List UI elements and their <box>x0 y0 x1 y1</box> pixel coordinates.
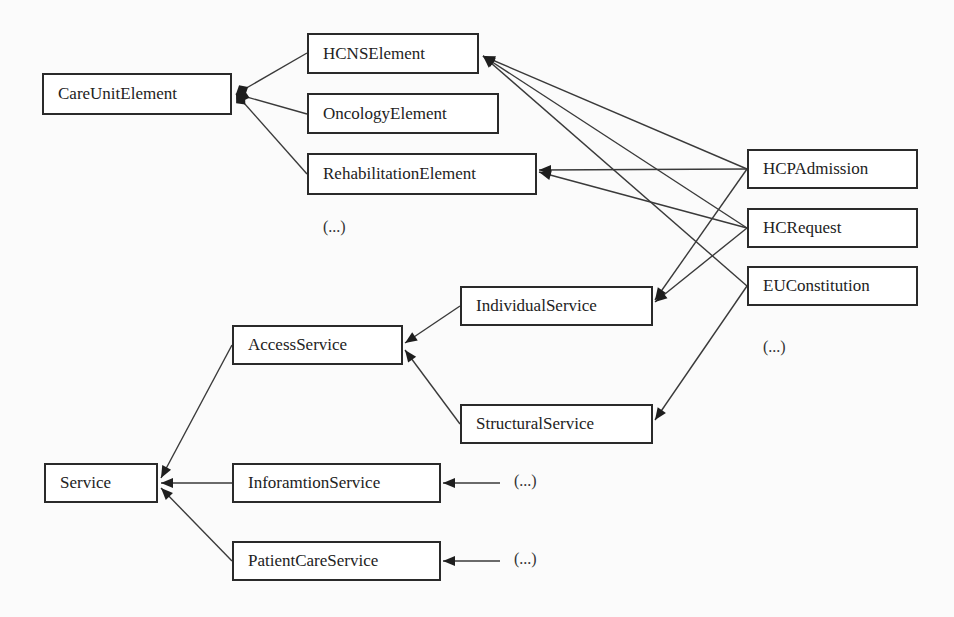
arrow-edge <box>161 345 232 478</box>
class-label: HCNSElement <box>323 44 425 64</box>
arrow-edge <box>443 478 500 488</box>
arrow-head-icon <box>405 332 418 343</box>
arrow-edge <box>655 169 747 300</box>
diamond-head-icon <box>236 94 245 104</box>
arrow-edge <box>539 170 747 228</box>
arrow-edge <box>655 228 747 302</box>
class-label: PatientCareService <box>248 551 378 571</box>
class-label: OncologyElement <box>323 104 447 124</box>
arrow-head-icon <box>655 407 666 420</box>
arrow-edge <box>483 56 747 228</box>
arrow-edge <box>161 488 232 561</box>
ellipsis-right: (...) <box>763 338 786 356</box>
class-box-structural-service: StructuralService <box>460 404 653 444</box>
arrow-head-icon <box>161 478 173 488</box>
arrow-edge <box>405 350 460 424</box>
arrow-edge <box>539 165 747 175</box>
class-label: IndividualService <box>476 296 597 316</box>
class-box-patient-care-service: PatientCareService <box>232 541 441 581</box>
ellipsis-info: (...) <box>514 472 537 490</box>
class-diagram: CareUnitElementHCNSElementOncologyElemen… <box>0 0 954 617</box>
arrow-edge <box>655 286 747 420</box>
arrow-edge <box>405 306 460 343</box>
arrow-head-icon <box>443 478 455 488</box>
class-label: CareUnitElement <box>58 84 177 104</box>
class-box-individual-service: IndividualService <box>460 286 653 326</box>
arrow-head-icon <box>443 556 455 566</box>
class-label: InforamtionService <box>248 473 380 493</box>
class-box-care-unit-element: CareUnitElement <box>42 73 232 115</box>
ellipsis-patient: (...) <box>514 550 537 568</box>
composition-edge <box>236 94 307 174</box>
arrow-edge <box>161 478 232 488</box>
class-label: Service <box>60 473 111 493</box>
class-box-hcp-admission: HCPAdmission <box>747 149 918 189</box>
class-label: AccessService <box>248 335 347 355</box>
class-box-hc-request: HCRequest <box>747 208 918 248</box>
class-label: StructuralService <box>476 414 594 434</box>
arrow-edge <box>443 556 500 566</box>
class-label: HCRequest <box>763 218 841 238</box>
class-box-rehabilitation-element: RehabilitationElement <box>307 153 537 195</box>
class-box-hcns-element: HCNSElement <box>307 33 479 74</box>
arrow-head-icon <box>161 465 171 478</box>
class-box-service: Service <box>44 463 158 503</box>
arrow-head-icon <box>405 350 416 363</box>
class-box-oncology-element: OncologyElement <box>307 93 499 134</box>
class-box-inforamtion-service: InforamtionService <box>232 463 441 503</box>
class-label: HCPAdmission <box>763 159 868 179</box>
composition-edge <box>236 53 307 96</box>
ellipsis-elements: (...) <box>323 218 346 236</box>
arrow-head-icon <box>539 170 552 180</box>
class-label: EUConstitution <box>763 276 870 296</box>
class-box-eu-constitution: EUConstitution <box>747 266 918 306</box>
class-box-access-service: AccessService <box>232 325 403 365</box>
composition-edge <box>236 90 307 114</box>
class-label: RehabilitationElement <box>323 164 476 184</box>
